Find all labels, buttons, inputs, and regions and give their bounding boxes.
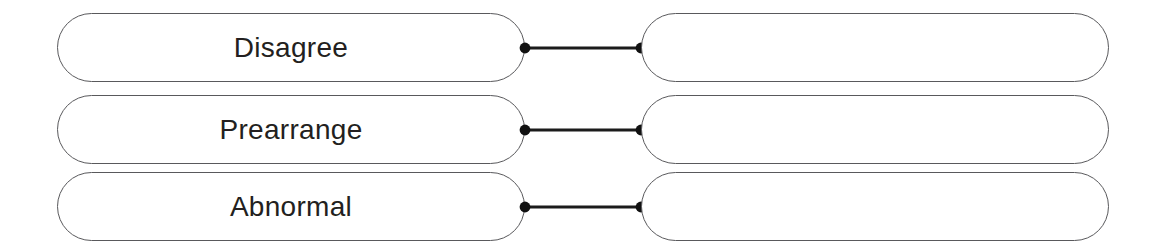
prompt-pill-abnormal[interactable]: Abnormal	[57, 172, 525, 241]
connector-line-row-3[interactable]	[521, 202, 645, 212]
connector-line-row-2[interactable]	[521, 125, 645, 135]
match-row: Disagree	[0, 13, 1162, 82]
connector-dot-left	[520, 125, 531, 136]
matching-exercise-worksheet: Disagree Prearrange	[0, 0, 1162, 250]
answer-pill-2[interactable]	[641, 95, 1109, 164]
prompt-pill-label: Disagree	[234, 34, 348, 62]
prompt-pill-label: Abnormal	[230, 193, 352, 221]
prompt-pill-prearrange[interactable]: Prearrange	[57, 95, 525, 164]
answer-pill-1[interactable]	[641, 13, 1109, 82]
prompt-pill-disagree[interactable]: Disagree	[57, 13, 525, 82]
match-row: Prearrange	[0, 95, 1162, 164]
connector-dot-left	[520, 202, 531, 213]
connector-line-row-1[interactable]	[521, 43, 645, 53]
match-row: Abnormal	[0, 172, 1162, 241]
connector-dot-left	[520, 43, 531, 54]
prompt-pill-label: Prearrange	[219, 116, 362, 144]
answer-pill-3[interactable]	[641, 172, 1109, 241]
